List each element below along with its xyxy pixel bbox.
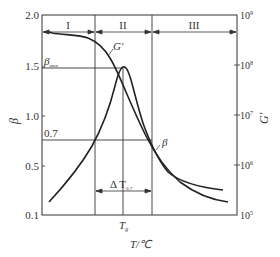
right-axis-title: G' <box>257 112 271 124</box>
g-prime-curve <box>49 32 228 202</box>
chart-svg: 2.0 1.5 1.0 0.7 0.5 0.1 βmax β 109 108 1… <box>0 0 280 257</box>
region-1-label: I <box>66 19 70 31</box>
plot-frame <box>42 15 237 215</box>
svg-text:108: 108 <box>240 60 253 71</box>
y-tick-1.5: 1.5 <box>25 60 39 72</box>
x-axis-title: T/℃ <box>130 238 153 250</box>
y-tick-1.0: 1.0 <box>25 110 39 122</box>
beta-07-label: 0.7 <box>44 127 58 139</box>
y-tick-2.0: 2.0 <box>25 9 39 21</box>
region-2-label: II <box>119 19 127 31</box>
delta-t-label: Δ T0.7 <box>110 178 133 191</box>
beta-leader <box>156 145 160 150</box>
beta-curve <box>49 67 223 202</box>
left-axis-title: β <box>7 118 21 125</box>
g-prime-curve-label: G' <box>113 40 124 52</box>
region-3-label: III <box>189 19 200 31</box>
svg-text:105: 105 <box>240 210 253 221</box>
beta-max-label: βmax <box>43 55 59 68</box>
y-tick-0.5: 0.5 <box>25 160 39 172</box>
region-arrows <box>43 30 236 34</box>
svg-text:106: 106 <box>240 160 253 171</box>
right-tick-labels: 109 108 107 106 105 <box>240 10 253 221</box>
svg-text:107: 107 <box>240 110 253 121</box>
beta-curve-label: β <box>161 136 168 148</box>
y-tick-0.1: 0.1 <box>25 209 39 221</box>
ts-label: Tg <box>119 219 128 232</box>
svg-text:109: 109 <box>240 10 253 21</box>
chart-figure: 2.0 1.5 1.0 0.7 0.5 0.1 βmax β 109 108 1… <box>0 0 280 257</box>
